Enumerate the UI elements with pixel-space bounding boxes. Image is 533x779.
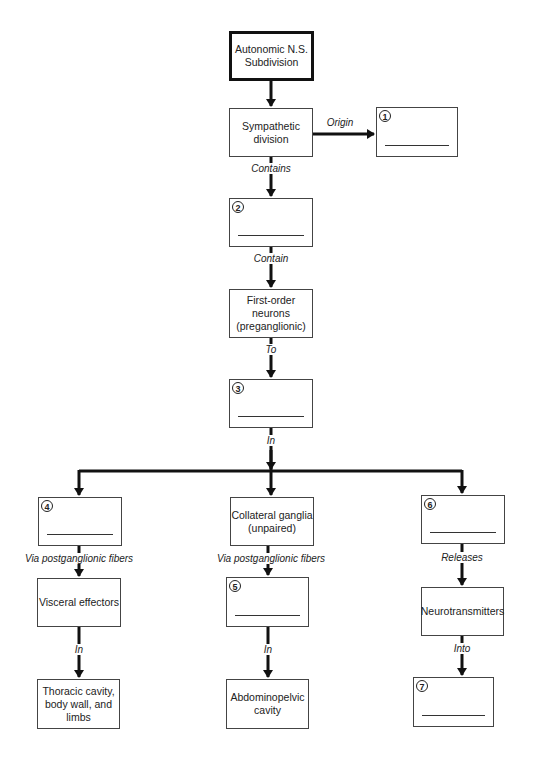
node-thoracic-cavity: Thoracic cavity, body wall, and limbs [37,679,120,729]
answer-line[interactable] [422,715,485,716]
answer-line[interactable] [385,145,449,146]
number-badge: 1 [379,110,391,122]
node-sympathetic-division: Sympathetic division [229,108,313,157]
node-neurotransmitters: Neurotransmitters [421,587,504,636]
node-visceral-effectors: Visceral effectors [37,578,121,627]
node-abdominopelvic-cavity: Abdominopelvic cavity [226,679,309,729]
edge-label-via-left: Via postganglionic fibers [24,553,134,564]
node-first-order-neurons: First-order neurons (preganglionic) [229,289,313,338]
node-label: Sympathetic division [230,120,312,146]
blank-node-2[interactable]: 2 [229,198,313,247]
answer-line[interactable] [235,615,300,616]
answer-line[interactable] [430,532,496,533]
edge-label-origin: Origin [326,117,355,128]
node-label: First-order neurons (preganglionic) [230,294,312,333]
root-node-autonomic: Autonomic N.S. Subdivision [229,31,314,81]
edge-label-in-center: In [263,644,273,655]
answer-line[interactable] [238,235,304,236]
blank-node-3[interactable]: 3 [229,379,313,428]
edge-label-via-center: Via postganglionic fibers [216,553,326,564]
node-label: Neurotransmitters [421,605,504,618]
node-label: Autonomic N.S. Subdivision [232,43,311,69]
number-badge: 2 [232,201,244,213]
answer-line[interactable] [238,416,304,417]
number-badge: 4 [41,500,53,512]
node-label: Thoracic cavity, body wall, and limbs [38,685,119,724]
edge-label-in-main: In [266,435,276,446]
node-label: Collateral ganglia (unpaired) [231,509,313,535]
number-badge: 3 [232,382,244,394]
edge-label-in-left: In [74,644,84,655]
blank-node-1[interactable]: 1 [376,107,458,157]
answer-line[interactable] [47,534,113,535]
blank-node-4[interactable]: 4 [38,497,122,546]
node-collateral-ganglia: Collateral ganglia (unpaired) [230,497,314,546]
edge-label-contain: Contain [253,253,289,264]
node-label: Visceral effectors [39,596,119,609]
number-badge: 7 [416,680,428,692]
blank-node-5[interactable]: 5 [226,577,309,627]
number-badge: 5 [229,580,241,592]
edge-label-contains: Contains [250,163,291,174]
node-label: Abdominopelvic cavity [227,691,308,717]
number-badge: 6 [424,498,436,510]
blank-node-7[interactable]: 7 [413,677,494,727]
edge-label-into: Into [453,643,472,654]
blank-node-6[interactable]: 6 [421,495,505,544]
edge-label-releases: Releases [440,552,484,563]
edge-label-to: To [265,344,278,355]
